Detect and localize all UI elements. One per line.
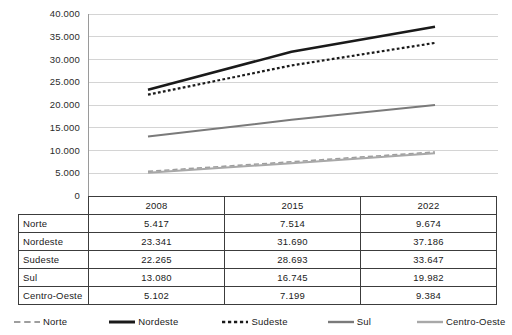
legend-label-norte: Norte [43, 316, 67, 327]
series-line-sul [148, 105, 435, 136]
y-tick-label-25000: 25.000 [50, 77, 80, 87]
table-body: Norte5.4177.5149.674Nordeste23.34131.690… [19, 215, 497, 305]
legend-item-sudeste[interactable]: Sudeste [222, 316, 287, 327]
y-axis: 05.00010.00015.00020.00025.00030.00035.0… [0, 0, 88, 200]
table-row-label-sul: Sul [19, 269, 89, 287]
table-cell-norte-2015: 7.514 [225, 215, 361, 233]
table-row-label-centro-oeste: Centro-Oeste [19, 287, 89, 305]
table-cell-nordeste-2015: 31.690 [225, 233, 361, 251]
legend-label-sul: Sul [357, 316, 371, 327]
table-col-header-2015: 2015 [225, 197, 361, 215]
chart-legend: NorteNordesteSudesteSulCentro-Oeste [0, 308, 512, 335]
y-tick-label-15000: 15.000 [50, 123, 80, 133]
legend-swatch-nordeste-icon [109, 317, 135, 327]
table-cell-sudeste-2022: 33.647 [361, 251, 497, 269]
table-cell-centro-oeste-2022: 9.384 [361, 287, 497, 305]
table-cell-sudeste-2015: 28.693 [225, 251, 361, 269]
table-cell-norte-2022: 9.674 [361, 215, 497, 233]
plot-svg [88, 0, 498, 200]
chart-with-data-table: 05.00010.00015.00020.00025.00030.00035.0… [0, 0, 512, 335]
legend-label-nordeste: Nordeste [138, 316, 178, 327]
table-cell-centro-oeste-2008: 5.102 [89, 287, 225, 305]
y-tick-label-20000: 20.000 [50, 100, 80, 110]
table-col-header-2008: 2008 [89, 197, 225, 215]
series-line-centro-oeste [148, 153, 435, 172]
table-cell-nordeste-2008: 23.341 [89, 233, 225, 251]
table-row-label-norte: Norte [19, 215, 89, 233]
series-line-norte [148, 152, 435, 171]
data-table: 2008 2015 2022 Norte5.4177.5149.674Norde… [18, 196, 497, 305]
y-tick-label-10000: 10.000 [50, 146, 80, 156]
y-tick-label-30000: 30.000 [50, 55, 80, 65]
table-col-header-2022: 2022 [361, 197, 497, 215]
legend-swatch-norte-icon [14, 317, 40, 327]
table-cell-sul-2022: 19.982 [361, 269, 497, 287]
table-row: Nordeste23.34131.69037.186 [19, 233, 497, 251]
legend-swatch-sudeste-icon [222, 317, 248, 327]
table-cell-nordeste-2022: 37.186 [361, 233, 497, 251]
legend-swatch-sul-icon [328, 317, 354, 327]
y-tick-label-5000: 5.000 [55, 168, 80, 178]
table-cell-norte-2008: 5.417 [89, 215, 225, 233]
legend-item-nordeste[interactable]: Nordeste [109, 316, 178, 327]
line-chart: 05.00010.00015.00020.00025.00030.00035.0… [0, 0, 512, 200]
table-row: Sul13.08016.74519.982 [19, 269, 497, 287]
legend-swatch-centro-oeste-icon [417, 317, 443, 327]
legend-item-norte[interactable]: Norte [14, 316, 67, 327]
table-cell-centro-oeste-2015: 7.199 [225, 287, 361, 305]
y-axis-line [88, 14, 89, 200]
legend-label-centro-oeste: Centro-Oeste [446, 316, 505, 327]
table-row-label-sudeste: Sudeste [19, 251, 89, 269]
table-cell-sudeste-2008: 22.265 [89, 251, 225, 269]
y-tick-label-35000: 35.000 [50, 32, 80, 42]
data-table-wrapper: 2008 2015 2022 Norte5.4177.5149.674Norde… [18, 196, 496, 305]
table-corner-cell [19, 197, 89, 215]
legend-label-sudeste: Sudeste [251, 316, 287, 327]
legend-item-sul[interactable]: Sul [328, 316, 371, 327]
table-row: Centro-Oeste5.1027.1999.384 [19, 287, 497, 305]
table-header: 2008 2015 2022 [19, 197, 497, 215]
table-row: Sudeste22.26528.69333.647 [19, 251, 497, 269]
plot-area [88, 0, 498, 200]
table-header-row: 2008 2015 2022 [19, 197, 497, 215]
legend-item-centro-oeste[interactable]: Centro-Oeste [417, 316, 505, 327]
y-tick-label-40000: 40.000 [50, 9, 80, 19]
table-row: Norte5.4177.5149.674 [19, 215, 497, 233]
table-row-label-nordeste: Nordeste [19, 233, 89, 251]
table-cell-sul-2008: 13.080 [89, 269, 225, 287]
table-cell-sul-2015: 16.745 [225, 269, 361, 287]
